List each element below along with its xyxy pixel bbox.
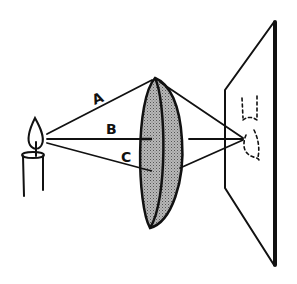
ray-a <box>47 80 152 134</box>
image-left-side <box>242 98 243 118</box>
convex-lens <box>140 78 182 228</box>
candle-top <box>22 152 44 158</box>
image-flame-right <box>254 130 259 157</box>
screen <box>225 22 275 265</box>
candle <box>22 118 44 196</box>
candle-left-side <box>23 156 24 196</box>
ray-c-refracted <box>180 140 243 168</box>
screen-outline <box>225 22 274 265</box>
ray-c <box>47 143 148 170</box>
ray-c-label: C <box>121 149 131 165</box>
lens-diagram: A B C <box>0 0 297 284</box>
image-top <box>243 117 258 121</box>
projected-image <box>242 96 259 160</box>
ray-b-label: B <box>106 121 117 137</box>
